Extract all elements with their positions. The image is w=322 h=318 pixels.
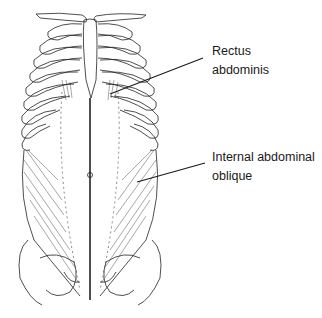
left-ribs	[22, 24, 82, 151]
leader-line-rectus	[110, 58, 203, 94]
clavicles	[36, 13, 146, 22]
label-oblique-line2: oblique	[212, 167, 315, 186]
label-internal-oblique: Internal abdominal oblique	[212, 148, 315, 186]
label-rectus-line1: Rectus	[212, 42, 269, 61]
label-rectus-abdominis: Rectus abdominis	[212, 42, 269, 80]
label-oblique-line1: Internal abdominal	[212, 148, 315, 167]
sternum	[83, 19, 97, 98]
label-rectus-line2: abdominis	[212, 61, 269, 80]
